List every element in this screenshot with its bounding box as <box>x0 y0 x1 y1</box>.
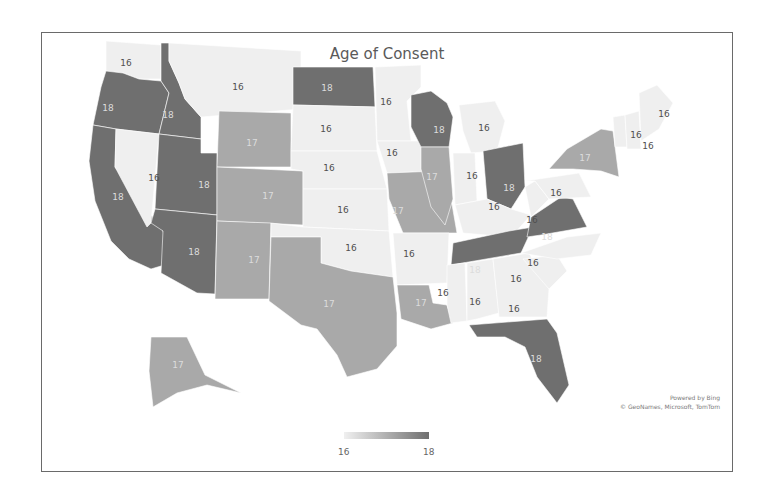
state-label-ks: 16 <box>337 205 349 215</box>
map-attribution: Powered by Bing © GeoNames, Microsoft, T… <box>620 393 720 411</box>
state-label-ia: 16 <box>386 148 398 158</box>
state-label-al: 16 <box>469 297 481 307</box>
legend-max-label: 18 <box>423 447 434 457</box>
state-label-ak: 17 <box>172 360 183 370</box>
powered-by-bing: Powered by Bing <box>620 393 720 402</box>
state-label-co: 17 <box>262 191 273 201</box>
state-co[interactable] <box>217 167 303 225</box>
state-label-or: 18 <box>102 103 114 113</box>
state-label-tn: 18 <box>469 265 481 275</box>
state-label-ar: 16 <box>403 249 415 259</box>
state-label-wy: 17 <box>246 138 257 148</box>
state-label-nm: 17 <box>248 255 259 265</box>
state-label-sd: 16 <box>320 124 332 134</box>
state-label-nv: 16 <box>148 173 160 183</box>
state-label-wa: 16 <box>120 58 132 68</box>
state-label-mt: 16 <box>232 82 244 92</box>
state-label-ms: 16 <box>437 288 449 298</box>
state-label-va: 18 <box>541 232 553 242</box>
state-ar[interactable] <box>393 233 449 285</box>
state-label-me: 16 <box>658 109 670 119</box>
state-label-pa: 16 <box>550 188 562 198</box>
state-ne[interactable] <box>291 151 387 189</box>
state-sd[interactable] <box>291 105 377 151</box>
state-label-nd: 18 <box>321 83 333 93</box>
state-label-ca: 18 <box>112 192 124 202</box>
legend-gradient-bar <box>344 432 429 439</box>
state-label-il: 17 <box>426 172 437 182</box>
state-label-tx: 17 <box>323 299 334 309</box>
state-label-fl: 18 <box>530 354 542 364</box>
state-label-oh: 18 <box>503 183 515 193</box>
state-label-la: 17 <box>415 298 426 308</box>
state-nd[interactable] <box>293 67 375 107</box>
state-label-vt: 16 <box>630 130 642 140</box>
state-fl[interactable] <box>469 319 569 403</box>
state-label-ut: 18 <box>198 180 210 190</box>
state-label-nh: 16 <box>642 141 654 151</box>
state-label-wv: 16 <box>526 215 538 225</box>
state-ak[interactable] <box>149 337 241 407</box>
state-ut[interactable] <box>155 134 217 215</box>
state-label-ga: 16 <box>508 304 520 314</box>
legend-min-label: 16 <box>338 447 349 457</box>
state-nc[interactable] <box>521 233 601 259</box>
state-label-ok: 16 <box>345 243 357 253</box>
state-oh[interactable] <box>483 143 525 209</box>
chart-frame: Age of Consent 1618181816181816171717181… <box>41 32 733 472</box>
state-ms[interactable] <box>447 263 467 323</box>
state-label-ne: 16 <box>323 163 335 173</box>
state-label-ny: 17 <box>579 153 590 163</box>
state-label-ky: 16 <box>488 202 500 212</box>
state-label-nc: 16 <box>527 258 539 268</box>
state-wi[interactable] <box>411 91 453 147</box>
state-label-sc: 16 <box>510 274 522 284</box>
state-label-wi: 18 <box>433 125 445 135</box>
state-label-mi: 16 <box>478 123 490 133</box>
state-vt[interactable] <box>613 115 627 147</box>
state-label-id: 18 <box>162 110 174 120</box>
state-label-mn: 16 <box>380 97 392 107</box>
state-label-mo: 17 <box>392 206 403 216</box>
state-label-az: 18 <box>188 247 200 257</box>
state-nm[interactable] <box>215 221 271 299</box>
map-copyright: © GeoNames, Microsoft, TomTom <box>620 402 720 411</box>
state-label-in: 16 <box>466 171 478 181</box>
